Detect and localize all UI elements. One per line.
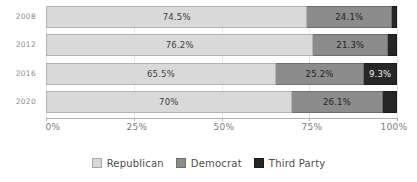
bar-segment-democrat-2008[interactable]: 24.1% <box>307 6 392 28</box>
legend-item-third-party[interactable]: Third Party <box>254 158 326 169</box>
bar-label-democrat-2008: 24.1% <box>335 13 363 22</box>
bar-label-democrat-2012: 21.3% <box>336 41 364 50</box>
stacked-bar-chart: 2008 2012 2016 2020 74.5% 24.1% <box>0 0 417 182</box>
y-axis-label-2020: 2020 <box>16 91 36 113</box>
x-axis-label-50: 50% <box>214 122 235 132</box>
bar-segment-republican-2016[interactable]: 65.5% <box>46 63 276 85</box>
x-axis-tick-50 <box>222 118 223 121</box>
x-axis-tick-25 <box>134 118 135 121</box>
legend-swatch-icon-third-party <box>254 158 264 168</box>
bar-row-2008[interactable]: 74.5% 24.1% <box>46 6 397 28</box>
y-axis-label-2008: 2008 <box>16 6 36 28</box>
plot-area: 74.5% 24.1% 76.2% 21.3% <box>46 6 397 118</box>
x-axis-labels: 0% 25% 50% 75% 100% <box>0 122 417 136</box>
x-axis-tick-100 <box>397 118 398 121</box>
legend-swatch-icon-democrat <box>176 158 186 168</box>
legend-swatch-icon-republican <box>92 158 102 168</box>
legend-item-republican[interactable]: Republican <box>92 158 164 169</box>
bar-row-2012[interactable]: 76.2% 21.3% <box>46 34 397 56</box>
bar-segment-third-party-2012[interactable] <box>388 34 397 56</box>
bar-segment-republican-2020[interactable]: 70% <box>46 91 292 113</box>
x-axis-label-100: 100% <box>381 122 408 132</box>
bar-label-republican-2008: 74.5% <box>163 13 191 22</box>
bar-label-democrat-2020: 26.1% <box>323 98 351 107</box>
y-axis-labels: 2008 2012 2016 2020 <box>0 6 42 118</box>
bar-row-2020[interactable]: 70% 26.1% <box>46 91 397 113</box>
x-axis-tick-0 <box>46 118 47 121</box>
y-axis-label-2016: 2016 <box>16 63 36 85</box>
x-axis-label-75: 75% <box>302 122 323 132</box>
bar-segment-third-party-2008[interactable] <box>392 6 397 28</box>
bar-label-democrat-2016: 25.2% <box>306 70 334 79</box>
bar-segment-democrat-2016[interactable]: 25.2% <box>276 63 364 85</box>
chart-legend: Republican Democrat Third Party <box>0 152 417 174</box>
bar-rows: 74.5% 24.1% 76.2% 21.3% <box>46 6 397 118</box>
bar-label-republican-2016: 65.5% <box>147 70 175 79</box>
bar-label-republican-2020: 70% <box>159 98 179 107</box>
legend-label-third-party: Third Party <box>269 158 326 169</box>
bar-label-third-party-2016: 9.3% <box>369 70 391 79</box>
bar-segment-republican-2008[interactable]: 74.5% <box>46 6 307 28</box>
legend-label-republican: Republican <box>107 158 164 169</box>
bar-label-republican-2012: 76.2% <box>166 41 194 50</box>
bar-segment-republican-2012[interactable]: 76.2% <box>46 34 313 56</box>
legend-item-democrat[interactable]: Democrat <box>176 158 242 169</box>
x-axis-label-25: 25% <box>127 122 148 132</box>
y-axis-label-2012: 2012 <box>16 34 36 56</box>
bar-segment-third-party-2016[interactable]: 9.3% <box>364 63 397 85</box>
legend-label-democrat: Democrat <box>191 158 242 169</box>
bar-segment-democrat-2012[interactable]: 21.3% <box>313 34 388 56</box>
bar-segment-third-party-2020[interactable] <box>383 91 397 113</box>
gridline-100 <box>397 6 398 118</box>
x-axis-tick-75 <box>309 118 310 121</box>
bar-segment-democrat-2020[interactable]: 26.1% <box>292 91 384 113</box>
x-axis-label-0: 0% <box>46 122 61 132</box>
bar-row-2016[interactable]: 65.5% 25.2% 9.3% <box>46 63 397 85</box>
